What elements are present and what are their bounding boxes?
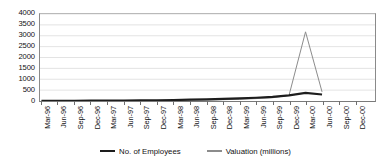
x-tick-mark bbox=[124, 101, 125, 105]
x-tick-mark bbox=[339, 101, 340, 105]
y-tick-label: 2500 bbox=[19, 42, 36, 50]
x-tick-mark bbox=[223, 101, 224, 105]
legend-label: Valuation (millions) bbox=[226, 147, 291, 156]
x-tick-label: Dec-97 bbox=[160, 106, 168, 129]
x-tick-mark bbox=[157, 101, 158, 105]
x-tick-mark bbox=[140, 101, 141, 105]
x-tick-mark bbox=[190, 101, 191, 105]
x-tick-mark bbox=[273, 101, 274, 105]
x-tick-mark bbox=[74, 101, 75, 105]
line-marker-icon bbox=[207, 150, 222, 151]
x-tick-label: Sep-97 bbox=[143, 106, 151, 129]
x-tick-mark bbox=[107, 101, 108, 105]
x-axis: Mar-96Jun-96Sep-96Dec-96Mar-97Jun-97Sep-… bbox=[39, 101, 376, 146]
y-tick-label: 1000 bbox=[19, 75, 36, 83]
y-tick-label: 500 bbox=[23, 86, 35, 94]
y-tick-label: 0 bbox=[31, 97, 35, 105]
x-tick-label: Mar-00 bbox=[309, 106, 317, 129]
line-chart: 4000 3500 3000 2500 2000 1500 1000 500 0… bbox=[0, 0, 391, 165]
x-tick-mark bbox=[323, 101, 324, 105]
plot-svg bbox=[40, 14, 375, 101]
y-axis: 4000 3500 3000 2500 2000 1500 1000 500 0 bbox=[0, 0, 38, 112]
plot-area bbox=[39, 13, 376, 102]
gridlines bbox=[40, 14, 375, 90]
x-tick-mark bbox=[256, 101, 257, 105]
x-tick-label: Mar-96 bbox=[44, 106, 52, 129]
x-tick-label: Jun-96 bbox=[60, 106, 68, 128]
x-tick-label: Jun-99 bbox=[260, 106, 268, 128]
y-tick-label: 1500 bbox=[19, 64, 36, 72]
x-tick-label: Sep-96 bbox=[77, 106, 85, 129]
y-tick-label: 3500 bbox=[19, 20, 36, 28]
legend-item-valuation: Valuation (millions) bbox=[207, 147, 291, 156]
y-tick-label: 3000 bbox=[19, 31, 36, 39]
line-marker-icon bbox=[100, 150, 115, 152]
legend-label: No. of Employees bbox=[119, 147, 181, 156]
x-tick-mark bbox=[356, 101, 357, 105]
x-tick-mark bbox=[173, 101, 174, 105]
y-tick-label: 4000 bbox=[19, 9, 36, 17]
x-tick-mark bbox=[240, 101, 241, 105]
series-line-employees bbox=[41, 92, 322, 100]
x-tick-mark bbox=[207, 101, 208, 105]
x-tick-label: Dec-98 bbox=[226, 106, 234, 129]
x-tick-label: Sep-98 bbox=[210, 106, 218, 129]
x-tick-mark bbox=[290, 101, 291, 105]
legend-item-employees: No. of Employees bbox=[100, 147, 181, 156]
x-tick-mark bbox=[306, 101, 307, 105]
x-tick-label: Jun-00 bbox=[326, 106, 334, 128]
x-tick-label: Mar-97 bbox=[110, 106, 118, 129]
x-tick-label: Jun-98 bbox=[193, 106, 201, 128]
series-line-valuation bbox=[41, 31, 322, 100]
x-tick-label: Mar-98 bbox=[177, 106, 185, 129]
y-tick-label: 2000 bbox=[19, 53, 36, 61]
x-tick-label: Mar-99 bbox=[243, 106, 251, 129]
chart-legend: No. of Employees Valuation (millions) bbox=[0, 143, 391, 159]
x-tick-label: Dec-99 bbox=[293, 106, 301, 129]
x-tick-label: Dec-00 bbox=[359, 106, 367, 129]
x-tick-mark bbox=[90, 101, 91, 105]
x-tick-label: Dec-96 bbox=[94, 106, 102, 129]
x-tick-label: Jun-97 bbox=[127, 106, 135, 128]
x-tick-label: Sep-99 bbox=[276, 106, 284, 129]
x-tick-label: Sep-00 bbox=[343, 106, 351, 129]
x-tick-mark bbox=[41, 101, 42, 105]
x-tick-mark bbox=[57, 101, 58, 105]
